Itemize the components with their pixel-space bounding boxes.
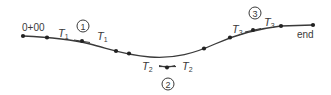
station-point xyxy=(114,49,118,53)
end-label: end xyxy=(297,29,314,40)
tangent-label-t2-left: T2 xyxy=(142,60,153,73)
tangent-label-t1-right: T1 xyxy=(97,30,108,43)
svg-text:3: 3 xyxy=(252,9,257,19)
tangent-point-1 xyxy=(80,39,84,43)
station-point xyxy=(279,24,283,28)
route-curve xyxy=(23,25,313,57)
station-point xyxy=(228,35,232,39)
tangent-label-t2-right: T2 xyxy=(182,60,193,73)
tangent-point-2 xyxy=(165,66,169,70)
tangent-label-t3-left: T3 xyxy=(232,23,243,36)
tangent-point-3 xyxy=(251,28,255,32)
svg-text:1: 1 xyxy=(80,22,85,32)
route-profile-diagram: 0+00 end T1 T1 T2 T2 T3 T3 1 2 3 xyxy=(0,0,331,95)
station-point xyxy=(202,46,206,50)
station-point xyxy=(127,51,131,55)
marker-1: 1 xyxy=(77,20,89,32)
station-point-start xyxy=(21,34,25,38)
station-point xyxy=(45,35,49,39)
marker-3: 3 xyxy=(249,7,261,19)
svg-text:2: 2 xyxy=(165,80,170,90)
tangent-label-t1-left: T1 xyxy=(58,27,69,40)
station-point-end xyxy=(311,23,315,27)
tangent-label-t3-right: T3 xyxy=(264,16,275,29)
start-station-label: 0+00 xyxy=(22,22,45,33)
marker-2: 2 xyxy=(162,78,174,90)
